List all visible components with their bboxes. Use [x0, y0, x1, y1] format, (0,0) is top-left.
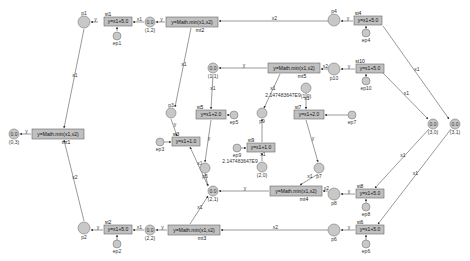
place-label: p9 [259, 118, 265, 124]
place-token-value: 0.0 [210, 65, 217, 71]
transition-mt4[interactable]: y=Math.min(x1,x2)mt4 [270, 186, 322, 202]
arc[interactable]: x2 [321, 63, 328, 70]
place-label: p7 [316, 173, 322, 179]
place-ep5[interactable]: ep5 [230, 111, 239, 125]
arc[interactable]: y [20, 128, 31, 135]
place-label: p2 [81, 234, 87, 240]
place-ep8[interactable]: ep8 [362, 203, 371, 217]
arc-label: x1 [400, 152, 406, 158]
place-label: p4 [331, 8, 337, 14]
transition-label: mt4 [300, 196, 309, 202]
transition-function: y=x1+2.0 [299, 111, 320, 117]
transition-st3[interactable]: y=x1+1.0st3 [172, 131, 200, 147]
arc-label: x2 [272, 15, 278, 21]
place-c21[interactable]: 0.0(2,1) [208, 186, 219, 202]
place-ep10[interactable]: ep10 [360, 77, 371, 91]
transition-st8[interactable]: y=x1+5.0st8 [356, 183, 384, 199]
arc[interactable]: x1 [210, 74, 216, 109]
arc-label: x1 [270, 85, 276, 91]
place-ep9[interactable]: ep9 [233, 144, 242, 158]
place-ep3[interactable]: ep3 [156, 138, 165, 152]
arc[interactable]: y [341, 15, 353, 22]
transition-st10[interactable]: y=x1+5.0st10 [355, 58, 384, 74]
place-ep1[interactable]: ep1 [113, 32, 122, 46]
place-token-value: 0.0 [147, 19, 154, 25]
place-p7[interactable]: p7 [314, 163, 324, 179]
arc[interactable]: y [156, 16, 165, 23]
arc[interactable]: y [91, 224, 103, 231]
arc[interactable]: y [205, 120, 211, 162]
place-c11[interactable]: 0.0(1,1) [208, 63, 219, 79]
transition-label: st4 [355, 10, 362, 16]
arc[interactable]: x1 [64, 29, 84, 128]
place-ep6[interactable]: ep6 [362, 240, 371, 254]
arc[interactable]: x2 [323, 185, 329, 192]
place-p6[interactable]: p6 [328, 224, 340, 242]
arc-label: x1 [307, 173, 313, 179]
place-p3[interactable]: p3 [166, 102, 176, 119]
transition-label: st7 [295, 104, 302, 110]
transition-label: st9 [248, 137, 255, 143]
arc[interactable]: y [219, 62, 267, 69]
arc[interactable]: x1 [378, 129, 451, 224]
transition-mt2[interactable]: y=Math.min(x1,x2)mt2 [166, 17, 218, 33]
arc[interactable]: x1 [175, 28, 191, 107]
transition-st1[interactable]: y=x1+5.0st1 [104, 11, 132, 27]
arc-label: x1 [413, 170, 419, 176]
transition-mt3[interactable]: y=Math.min(x1,x2)mt3 [168, 225, 220, 241]
arc[interactable]: y [219, 185, 269, 192]
place-c30[interactable]: 0.0(3,0) [428, 119, 439, 135]
place-c03[interactable]: 0.0(0,3) [9, 129, 20, 145]
transition-function: y=Math.min(x1,x2) [171, 19, 213, 25]
place-p9[interactable]: p9 [257, 108, 267, 124]
place-c22[interactable]: 0.0(2,2) [145, 225, 156, 241]
arc[interactable]: x1 [375, 129, 429, 188]
transition-st7[interactable]: y=x1+2.0st7 [294, 104, 324, 120]
arc[interactable]: y [156, 224, 167, 231]
transition-label: mt1 [62, 139, 71, 145]
arc[interactable]: y [306, 120, 318, 162]
place-p4[interactable]: p4 [328, 8, 340, 27]
place-c102[interactable]: (1,0) [301, 83, 312, 99]
place-p10[interactable]: p10 [328, 63, 340, 81]
place-p2[interactable]: p2 [78, 222, 90, 240]
place-p8[interactable]: p8 [328, 188, 340, 206]
place-coordinate: (3,1) [450, 129, 461, 135]
place-p5[interactable]: p5 [200, 163, 210, 179]
place-coordinate: (1,0) [301, 93, 312, 99]
arc[interactable]: x1 [190, 196, 208, 224]
transition-label: mt2 [196, 27, 205, 33]
place-ep4[interactable]: ep4 [362, 29, 371, 43]
place-ep7[interactable]: ep7 [348, 111, 357, 125]
transition-label: st3 [173, 131, 180, 137]
arc[interactable]: x1 [133, 16, 144, 23]
place-c20[interactable]: (2,0) [257, 162, 268, 178]
transition-st9[interactable]: y=x1+1.0st9 [247, 137, 275, 153]
arc[interactable]: y [341, 63, 355, 70]
value-annotation: 2.147483647E9 [265, 92, 301, 98]
arc[interactable]: y [341, 224, 355, 231]
arc-label: x1 [137, 224, 143, 230]
arc[interactable]: x2 [219, 15, 328, 22]
transition-function: y=x1+5.0 [108, 226, 129, 232]
arc[interactable]: x1 [264, 74, 280, 108]
transition-mt1[interactable]: y=Math.min(x1,x2)mt1 [32, 129, 84, 145]
place-ep2[interactable]: ep2 [113, 240, 122, 254]
arc[interactable]: x2 [64, 140, 84, 221]
transition-st4[interactable]: y=x1+5.0st4 [354, 10, 382, 26]
place-c31[interactable]: 0.0(3,1) [450, 119, 461, 135]
arc-label: y [348, 224, 351, 230]
arc[interactable]: x1 [383, 26, 449, 119]
transition-mt5[interactable]: y=Math.min(x1,x2)mt5 [268, 63, 320, 79]
place-p1[interactable]: p1 [78, 10, 90, 29]
place-c12[interactable]: 0.0(1,2) [145, 17, 156, 33]
arc-label: y [25, 128, 28, 134]
place-coordinate: (2,0) [257, 172, 268, 178]
arc[interactable]: x2 [221, 224, 328, 231]
arc[interactable]: y [91, 16, 98, 23]
transition-st2[interactable]: y=x1+5.0st2 [104, 219, 132, 235]
place-label: ep5 [230, 119, 239, 125]
transition-st6[interactable]: y=x1+5.0st6 [356, 219, 384, 235]
arc[interactable]: y [341, 188, 355, 195]
arc[interactable]: x1 [133, 224, 144, 231]
